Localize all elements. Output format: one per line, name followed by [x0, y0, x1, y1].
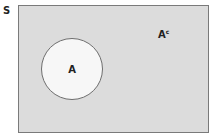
complement-superscript: c [166, 28, 170, 35]
universe-label: S [3, 5, 10, 16]
set-a-label: A [42, 64, 102, 75]
complement-base: A [158, 29, 166, 40]
set-a-circle: A [41, 38, 103, 100]
sample-space-rectangle: A Ac [18, 5, 209, 133]
complement-label: Ac [158, 28, 169, 40]
